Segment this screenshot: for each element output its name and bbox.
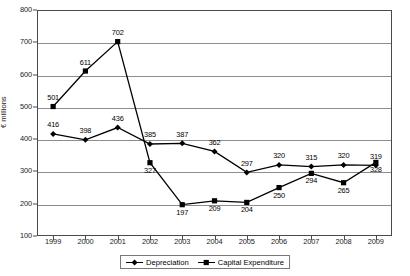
data-point-label: 209 [209,205,221,213]
x-axis-tick-mark [215,236,216,240]
data-point-label: 204 [241,206,253,214]
data-point-label: 265 [338,187,350,195]
y-axis-tick-label: 100 [20,232,32,239]
gridline [38,108,391,109]
data-point-label: 197 [176,209,188,217]
x-axis-tick-mark [150,236,151,240]
y-axis-tick-label: 200 [20,200,32,207]
gridline [38,43,391,44]
y-axis-tick-label: 800 [20,6,32,13]
x-axis-tick-mark [118,236,119,240]
legend-label: Capital Expenditure [218,258,284,267]
x-axis-tick-mark [376,236,377,240]
x-axis-tick-mark [344,236,345,240]
y-axis-tick-label: 700 [20,39,32,46]
y-axis-tick-label: 300 [20,168,32,175]
x-axis-tick-mark [85,236,86,240]
data-point-label: 362 [209,139,221,147]
data-point-label: 702 [112,29,124,37]
legend-item-depreciation[interactable]: Depreciation [126,258,189,267]
x-axis-tick-mark [311,236,312,240]
gridline [38,172,391,173]
chart-legend: DepreciationCapital Expenditure [120,255,290,269]
data-point-label: 398 [80,127,92,135]
data-point-label: 320 [338,152,350,160]
data-point-label: 416 [47,121,59,129]
plot-area [37,10,392,236]
data-point-label: 501 [47,94,59,102]
y-axis-tick-label: 500 [20,103,32,110]
data-point-label: 319 [370,153,382,161]
x-axis-tick-mark [53,236,54,240]
data-point-label: 328 [370,166,382,174]
data-point-label: 320 [273,152,285,160]
legend-item-capital-expenditure[interactable]: Capital Expenditure [198,258,284,267]
data-point-label: 294 [305,177,317,185]
line-chart: € millions 100200300400500600700800 1999… [0,0,410,276]
data-point-label: 385 [144,131,156,139]
data-point-label: 297 [241,160,253,168]
y-axis: 100200300400500600700800 [0,0,37,246]
y-axis-tick-label: 600 [20,71,32,78]
diamond-marker-icon [126,258,143,267]
x-axis-tick-mark [182,236,183,240]
x-axis: 1999200020012002200320042005200620072008… [37,238,392,252]
data-point-label: 387 [176,131,188,139]
square-marker-icon [198,258,215,267]
y-axis-tick-label: 400 [20,135,32,142]
data-point-label: 436 [112,115,124,123]
data-point-label: 315 [305,154,317,162]
legend-label: Depreciation [146,258,189,267]
x-axis-tick-mark [247,236,248,240]
data-point-label: 250 [273,192,285,200]
x-axis-tick-mark [279,236,280,240]
data-point-label: 327 [144,167,156,175]
gridline [38,76,391,77]
data-point-label: 611 [80,59,91,67]
